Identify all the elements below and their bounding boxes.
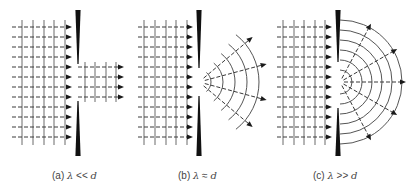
- arrowhead-icon: [187, 44, 193, 49]
- arrowhead-icon: [66, 104, 72, 109]
- arrowhead-icon: [187, 54, 193, 59]
- arrowhead-icon: [66, 54, 72, 59]
- arrowhead-icon: [118, 94, 124, 99]
- panel-b: [138, 10, 267, 156]
- arrowhead-icon: [187, 124, 193, 129]
- barrier-lower: [75, 101, 80, 156]
- arrowhead-icon: [66, 44, 72, 49]
- arrowhead-icon: [326, 124, 332, 129]
- arrowhead-icon: [66, 94, 72, 99]
- caption-prefix: (b): [178, 170, 193, 181]
- caption-prefix: (c): [313, 170, 327, 181]
- arrowhead-icon: [66, 74, 72, 79]
- slit-width-symbol: d: [351, 170, 357, 181]
- arrowhead-icon: [326, 134, 332, 139]
- arrowhead-icon: [187, 84, 193, 89]
- arrowhead-icon: [66, 24, 72, 29]
- arrowhead-icon: [187, 24, 193, 29]
- caption-a: (a) λ << d: [52, 170, 97, 181]
- arrowhead-icon: [326, 104, 332, 109]
- slit-width-symbol: d: [91, 170, 97, 181]
- relation-symbol: ≈: [199, 170, 210, 181]
- arrowhead-icon: [400, 79, 406, 84]
- arrowhead-icon: [326, 34, 332, 39]
- arrowhead-icon: [187, 94, 193, 99]
- diffracted-ray: [204, 86, 249, 124]
- barrier-lower: [196, 96, 201, 156]
- arrowhead-icon: [66, 134, 72, 139]
- arrowhead-icon: [118, 84, 124, 89]
- arrowhead-icon: [326, 44, 332, 49]
- arrowhead-icon: [326, 54, 332, 59]
- arrowhead-icon: [66, 84, 72, 89]
- arrowhead-icon: [187, 134, 193, 139]
- relation-symbol: <<: [73, 170, 90, 181]
- arrowhead-icon: [66, 64, 72, 69]
- diffraction-diagram: [0, 0, 406, 195]
- barrier-upper: [335, 10, 340, 62]
- arrowhead-icon: [326, 64, 332, 69]
- arrowhead-icon: [118, 64, 124, 69]
- barrier-lower: [335, 108, 340, 156]
- arrowhead-icon: [326, 114, 332, 119]
- arrowhead-icon: [187, 34, 193, 39]
- caption-c: (c) λ >> d: [313, 170, 357, 181]
- relation-symbol: >>: [334, 170, 351, 181]
- arrowhead-icon: [260, 96, 266, 101]
- arrowhead-icon: [187, 104, 193, 109]
- panel-a: [12, 10, 124, 156]
- arrowhead-icon: [187, 114, 193, 119]
- arrowhead-icon: [66, 124, 72, 129]
- diffracted-ray: [204, 40, 249, 78]
- arrowhead-icon: [326, 24, 332, 29]
- caption-b: (b) λ ≈ d: [178, 170, 217, 181]
- diffracted-wavefront: [206, 73, 211, 92]
- arrowhead-icon: [260, 63, 266, 68]
- barrier-upper: [75, 10, 80, 64]
- arrowhead-icon: [187, 64, 193, 69]
- arrowhead-icon: [326, 84, 332, 89]
- diffracted-wavefront: [229, 44, 247, 120]
- diffracted-ray: [205, 84, 262, 99]
- arrowhead-icon: [66, 34, 72, 39]
- arrowhead-icon: [326, 94, 332, 99]
- diffracted-ray: [205, 65, 262, 80]
- caption-prefix: (a): [52, 170, 67, 181]
- barrier-upper: [196, 10, 201, 68]
- slit-width-symbol: d: [210, 170, 216, 181]
- arrowhead-icon: [326, 74, 332, 79]
- panel-c: [277, 10, 406, 156]
- arrowhead-icon: [66, 114, 72, 119]
- arrowhead-icon: [118, 74, 124, 79]
- arrowhead-icon: [187, 74, 193, 79]
